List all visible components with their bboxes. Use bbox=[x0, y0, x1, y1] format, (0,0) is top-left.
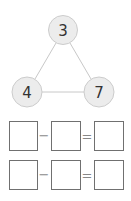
node-top-value: 3 bbox=[58, 22, 68, 40]
equals-sign: = bbox=[82, 129, 93, 144]
node-left: 4 bbox=[12, 77, 42, 107]
answer-box[interactable] bbox=[10, 161, 38, 190]
node-top: 3 bbox=[49, 16, 78, 45]
answer-box[interactable] bbox=[52, 122, 81, 151]
equation-row-1: − = bbox=[10, 122, 124, 151]
answer-box[interactable] bbox=[95, 161, 124, 190]
equals-sign: = bbox=[82, 168, 93, 183]
node-right: 7 bbox=[84, 77, 114, 107]
answer-box[interactable] bbox=[95, 122, 124, 151]
minus-sign: − bbox=[39, 128, 50, 143]
number-triangle-diagram: 3 4 7 − = − = bbox=[0, 0, 131, 201]
edge-top-left bbox=[35, 43, 56, 79]
answer-box[interactable] bbox=[10, 122, 38, 151]
equation-row-2: − = bbox=[10, 161, 124, 190]
minus-sign: − bbox=[39, 167, 50, 182]
edge-top-right bbox=[70, 43, 91, 79]
node-left-value: 4 bbox=[22, 84, 32, 102]
answer-box[interactable] bbox=[52, 161, 81, 190]
node-right-value: 7 bbox=[94, 84, 104, 102]
